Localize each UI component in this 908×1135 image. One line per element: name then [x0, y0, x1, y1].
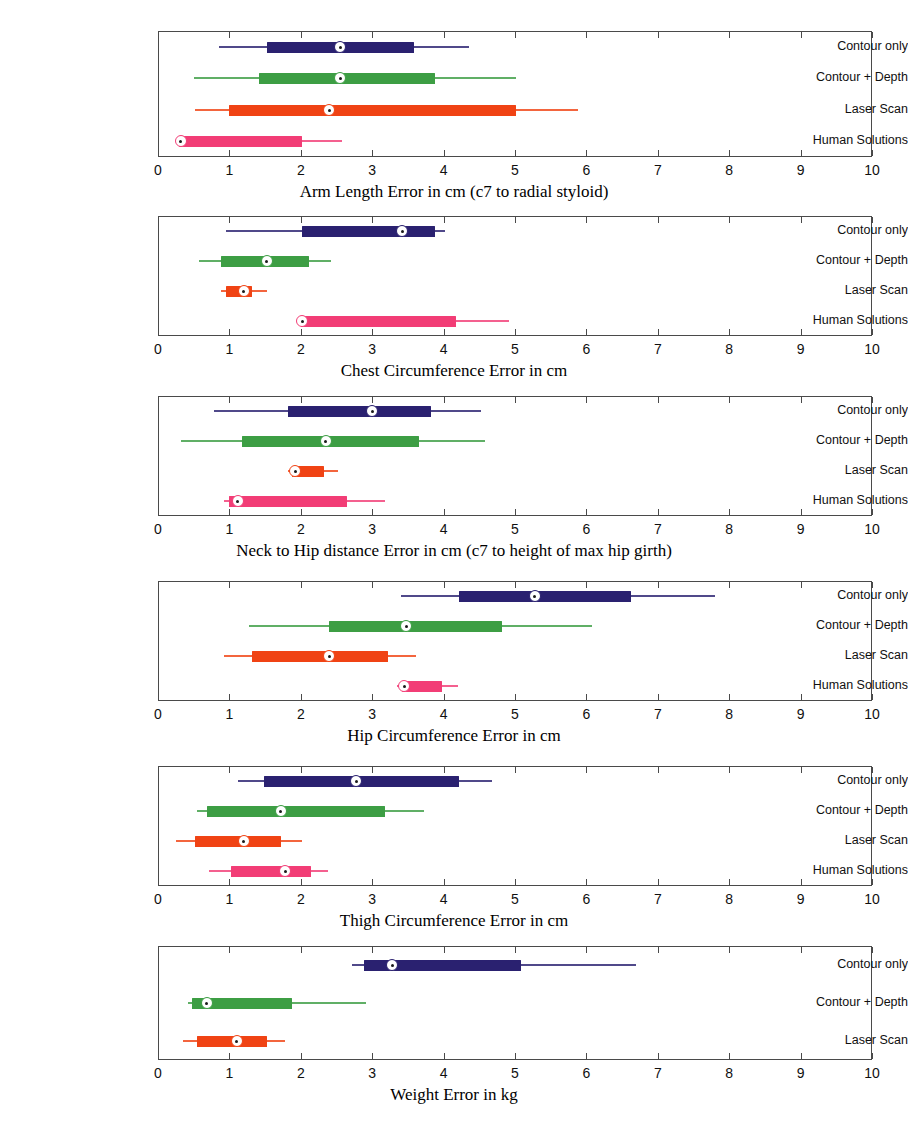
axis-tick-mark — [158, 767, 159, 773]
axis-tick-mark — [515, 329, 516, 335]
row-label-contour-depth: Contour + Depth — [753, 434, 908, 447]
axis-tick-mark — [658, 582, 659, 588]
axis-tick-mark — [801, 150, 802, 156]
axis-tick-mark — [872, 329, 873, 335]
axis-tick-mark — [372, 879, 373, 885]
axis-tick-mark — [729, 767, 730, 773]
axis-tick-label: 6 — [571, 892, 601, 906]
axis-tick-mark — [729, 329, 730, 335]
axis-tick-label: 6 — [571, 342, 601, 356]
median-marker — [529, 590, 541, 602]
axis-tick-mark — [658, 32, 659, 38]
axis-tick-mark — [158, 947, 159, 953]
axis-tick-label: 1 — [214, 342, 244, 356]
axis-tick-mark — [515, 509, 516, 515]
axis-tick-mark — [729, 509, 730, 515]
axis-tick-label: 1 — [214, 522, 244, 536]
row-label-human-solutions: Human Solutions — [753, 134, 908, 147]
figure-root: 012345678910Contour onlyContour + DepthL… — [0, 0, 908, 1135]
axis-tick-label: 10 — [857, 342, 887, 356]
axis-tick-mark — [158, 32, 159, 38]
axis-tick-mark — [658, 217, 659, 223]
axis-tick-mark — [372, 509, 373, 515]
axis-tick-mark — [158, 509, 159, 515]
axis-tick-mark — [444, 879, 445, 885]
axis-tick-mark — [586, 947, 587, 953]
axis-tick-label: 2 — [286, 892, 316, 906]
axis-tick-label: 7 — [643, 163, 673, 177]
axis-tick-mark — [229, 32, 230, 38]
axis-tick-mark — [872, 879, 873, 885]
axis-title: Hip Circumference Error in cm — [0, 727, 908, 744]
axis-tick-label: 3 — [357, 707, 387, 721]
axis-tick-mark — [729, 582, 730, 588]
axis-tick-mark — [372, 217, 373, 223]
axis-tick-label: 10 — [857, 1066, 887, 1080]
axis-tick-label: 1 — [214, 892, 244, 906]
axis-tick-mark — [586, 767, 587, 773]
box-bar — [459, 591, 630, 602]
axis-tick-mark — [158, 582, 159, 588]
row-label-human-solutions: Human Solutions — [753, 864, 908, 877]
axis-tick-mark — [229, 879, 230, 885]
axis-tick-mark — [729, 879, 730, 885]
axis-tick-label: 9 — [786, 522, 816, 536]
row-label-laser-scan: Laser Scan — [753, 834, 908, 847]
row-label-laser-scan: Laser Scan — [753, 649, 908, 662]
axis-tick-label: 5 — [500, 163, 530, 177]
row-label-contour-only: Contour only — [753, 40, 908, 53]
axis-tick-mark — [515, 397, 516, 403]
axis-tick-mark — [444, 947, 445, 953]
axis-tick-mark — [801, 32, 802, 38]
axis-tick-mark — [444, 150, 445, 156]
axis-tick-mark — [372, 32, 373, 38]
axis-tick-label: 6 — [571, 707, 601, 721]
box-bar — [207, 806, 386, 817]
box-bar — [252, 651, 388, 662]
axis-tick-label: 10 — [857, 892, 887, 906]
axis-tick-mark — [229, 217, 230, 223]
row-label-laser-scan: Laser Scan — [753, 284, 908, 297]
axis-tick-mark — [586, 329, 587, 335]
axis-tick-label: 7 — [643, 1066, 673, 1080]
axis-tick-mark — [515, 32, 516, 38]
row-label-human-solutions: Human Solutions — [753, 494, 908, 507]
axis-tick-label: 9 — [786, 707, 816, 721]
axis-tick-mark — [301, 767, 302, 773]
axis-tick-mark — [444, 329, 445, 335]
axis-tick-label: 2 — [286, 1066, 316, 1080]
axis-tick-mark — [515, 947, 516, 953]
axis-tick-mark — [801, 1053, 802, 1059]
axis-tick-mark — [515, 217, 516, 223]
row-label-contour-depth: Contour + Depth — [753, 804, 908, 817]
axis-tick-mark — [444, 1053, 445, 1059]
axis-tick-mark — [801, 582, 802, 588]
axis-tick-label: 4 — [429, 707, 459, 721]
axis-tick-label: 5 — [500, 707, 530, 721]
row-label-contour-only: Contour only — [753, 958, 908, 971]
box-bar — [179, 136, 302, 147]
box-bar — [231, 866, 312, 877]
median-marker — [175, 135, 187, 147]
axis-tick-label: 8 — [714, 892, 744, 906]
axis-tick-mark — [301, 947, 302, 953]
row-label-laser-scan: Laser Scan — [753, 103, 908, 116]
axis-title: Chest Circumference Error in cm — [0, 362, 908, 379]
axis-tick-mark — [229, 397, 230, 403]
box-bar — [288, 406, 431, 417]
axis-tick-mark — [301, 509, 302, 515]
axis-tick-mark — [301, 217, 302, 223]
axis-tick-label: 8 — [714, 707, 744, 721]
median-marker — [232, 495, 244, 507]
axis-tick-mark — [158, 217, 159, 223]
axis-tick-label: 7 — [643, 522, 673, 536]
axis-tick-label: 9 — [786, 1066, 816, 1080]
median-marker — [231, 1035, 243, 1047]
axis-tick-mark — [372, 1053, 373, 1059]
axis-tick-label: 0 — [143, 892, 173, 906]
axis-tick-label: 1 — [214, 163, 244, 177]
axis-tick-mark — [586, 217, 587, 223]
row-label-human-solutions: Human Solutions — [753, 314, 908, 327]
axis-tick-mark — [229, 150, 230, 156]
median-marker — [238, 835, 250, 847]
